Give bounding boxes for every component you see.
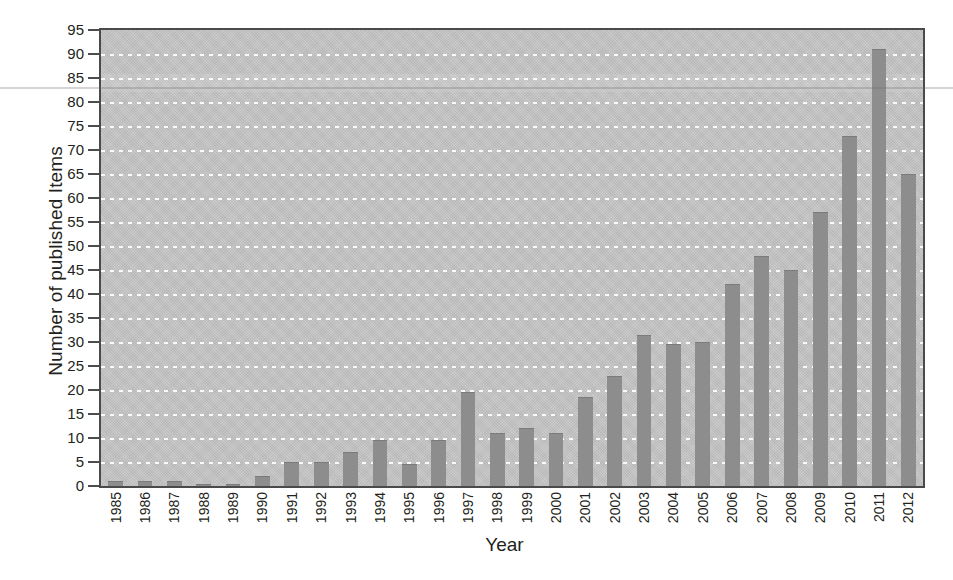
y-axis-tick-mark: [88, 197, 99, 199]
y-axis-tick-label: 75: [24, 116, 84, 136]
y-axis: 05101520253035404550556065707580859095: [0, 0, 99, 580]
y-axis-tick-mark: [88, 125, 99, 127]
bar: [461, 392, 476, 486]
y-axis-tick-mark: [88, 293, 99, 295]
y-axis-tick-mark: [88, 341, 99, 343]
y-axis-tick-mark: [88, 149, 99, 151]
y-axis-tick-mark: [88, 365, 99, 367]
bar: [549, 433, 564, 486]
y-axis-tick-label: 55: [24, 212, 84, 232]
y-axis-tick-mark: [88, 77, 99, 79]
bar: [343, 452, 358, 486]
bar: [284, 462, 299, 486]
y-axis-tick-mark: [88, 245, 99, 247]
bar: [813, 212, 828, 486]
bar: [138, 481, 153, 486]
bar: [490, 433, 505, 486]
y-axis-tick-label: 0: [24, 476, 84, 496]
bars: [101, 30, 923, 486]
bar: [108, 481, 123, 486]
y-axis-tick-label: 80: [24, 92, 84, 112]
y-axis-tick-label: 50: [24, 236, 84, 256]
bar: [666, 344, 681, 486]
y-axis-tick-label: 25: [24, 356, 84, 376]
y-axis-tick-mark: [88, 101, 99, 103]
y-axis-tick-label: 95: [24, 20, 84, 40]
bar: [695, 342, 710, 486]
y-axis-tick-label: 70: [24, 140, 84, 160]
bar: [637, 335, 652, 486]
y-axis-tick-label: 30: [24, 332, 84, 352]
y-axis-tick-label: 5: [24, 452, 84, 472]
bar: [255, 476, 270, 486]
y-axis-tick-label: 60: [24, 188, 84, 208]
y-axis-tick-mark: [88, 437, 99, 439]
x-axis-title-text: Year: [485, 534, 523, 555]
y-axis-tick-label: 10: [24, 428, 84, 448]
bar: [402, 464, 417, 486]
y-axis-tick-label: 40: [24, 284, 84, 304]
y-axis-tick-mark: [88, 317, 99, 319]
bar: [784, 270, 799, 486]
bar: [872, 49, 887, 486]
bar: [431, 440, 446, 486]
bar: [901, 174, 916, 486]
y-axis-tick-mark: [88, 461, 99, 463]
y-axis-tick-mark: [88, 269, 99, 271]
y-axis-tick-label: 90: [24, 44, 84, 64]
bar: [519, 428, 534, 486]
bar: [607, 376, 622, 486]
y-axis-tick-mark: [88, 29, 99, 31]
y-axis-tick-mark: [88, 53, 99, 55]
y-axis-tick-label: 65: [24, 164, 84, 184]
y-axis-tick-label: 35: [24, 308, 84, 328]
y-axis-tick-mark: [88, 413, 99, 415]
bar: [842, 136, 857, 486]
bar: [754, 256, 769, 486]
x-axis-title: Year: [0, 534, 953, 556]
y-axis-tick-mark: [88, 389, 99, 391]
bar: [196, 484, 211, 486]
bar: [167, 481, 182, 486]
bar: [578, 397, 593, 486]
bar-chart: Number of published Items 05101520253035…: [0, 0, 953, 580]
plot-area: [99, 28, 925, 488]
y-axis-tick-label: 15: [24, 404, 84, 424]
bar: [373, 440, 388, 486]
y-axis-tick-mark: [88, 221, 99, 223]
y-axis-tick-label: 20: [24, 380, 84, 400]
bar: [226, 484, 241, 486]
bar: [314, 462, 329, 486]
y-axis-tick-mark: [88, 173, 99, 175]
y-axis-tick-mark: [88, 485, 99, 487]
y-axis-tick-label: 45: [24, 260, 84, 280]
y-axis-tick-label: 85: [24, 68, 84, 88]
bar: [725, 284, 740, 486]
